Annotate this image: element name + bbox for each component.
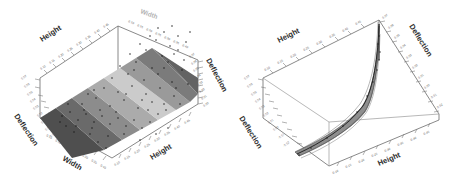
svg-text:0.40: 0.40 bbox=[173, 124, 180, 131]
svg-text:0.04: 0.04 bbox=[254, 97, 261, 104]
svg-text:0.04: 0.04 bbox=[399, 43, 406, 50]
svg-text:0.45: 0.45 bbox=[183, 118, 190, 125]
svg-text:0.20: 0.20 bbox=[290, 52, 297, 58]
svg-text:0.40: 0.40 bbox=[342, 26, 349, 32]
svg-text:0.02: 0.02 bbox=[411, 63, 418, 70]
svg-text:0.06: 0.06 bbox=[23, 82, 30, 89]
svg-text:0.15: 0.15 bbox=[123, 154, 130, 161]
svg-text:0.35: 0.35 bbox=[173, 39, 180, 45]
svg-text:0.07: 0.07 bbox=[188, 52, 195, 59]
left-axis-title-height-bottom: Height bbox=[148, 142, 173, 162]
svg-text:0.30: 0.30 bbox=[75, 40, 82, 47]
svg-text:0.20: 0.20 bbox=[146, 27, 153, 33]
svg-text:0.02: 0.02 bbox=[198, 87, 205, 94]
svg-text:0.25: 0.25 bbox=[155, 31, 162, 37]
svg-text:0.35: 0.35 bbox=[84, 34, 91, 41]
svg-text:0.30: 0.30 bbox=[384, 147, 391, 153]
svg-text:0.30: 0.30 bbox=[164, 35, 171, 41]
right-surface-ribbon bbox=[295, 22, 381, 158]
svg-text:0.10: 0.10 bbox=[264, 65, 271, 71]
right-axis-title-height-bottom: Height bbox=[376, 150, 402, 168]
right-axis-deflection-left-ticks: 0.07 0.06 0.05 0.04 0.03 0.02 0.01 0.00 … bbox=[237, 74, 307, 151]
svg-text:0.07: 0.07 bbox=[381, 13, 388, 20]
svg-text:0.30: 0.30 bbox=[153, 136, 160, 143]
svg-text:0.20: 0.20 bbox=[358, 158, 365, 164]
svg-text:0.07: 0.07 bbox=[20, 74, 27, 81]
svg-text:0.15: 0.15 bbox=[48, 58, 55, 65]
svg-text:0.03: 0.03 bbox=[32, 104, 39, 111]
svg-text:0.10: 0.10 bbox=[113, 160, 120, 167]
svg-text:0.40: 0.40 bbox=[100, 163, 107, 170]
svg-text:0.30: 0.30 bbox=[316, 39, 323, 45]
surface-plot-edge-on: 0.10 0.15 0.20 0.25 0.30 0.35 0.40 0.45 … bbox=[233, 0, 465, 188]
svg-text:0.06: 0.06 bbox=[387, 23, 394, 30]
svg-text:0.15: 0.15 bbox=[277, 58, 284, 64]
svg-text:0.06: 0.06 bbox=[246, 82, 253, 89]
svg-text:0.25: 0.25 bbox=[66, 46, 73, 53]
figure-container: 0.10 0.15 0.20 0.25 0.30 0.35 0.40 0.45 … bbox=[0, 0, 465, 188]
svg-text:0.05: 0.05 bbox=[26, 90, 33, 97]
svg-text:0.40: 0.40 bbox=[182, 43, 189, 49]
svg-text:0.20: 0.20 bbox=[133, 148, 140, 155]
svg-text:0.03: 0.03 bbox=[405, 53, 412, 60]
svg-text:0.10: 0.10 bbox=[128, 19, 135, 25]
left-surface-bands bbox=[40, 48, 198, 158]
svg-text:-0.02: -0.02 bbox=[282, 140, 290, 148]
svg-text:0.03: 0.03 bbox=[258, 104, 265, 111]
svg-text:0.40: 0.40 bbox=[410, 136, 417, 142]
svg-text:0.45: 0.45 bbox=[355, 19, 362, 25]
svg-text:0.45: 0.45 bbox=[423, 130, 430, 136]
svg-text:0.35: 0.35 bbox=[329, 32, 336, 38]
svg-text:0.00: 0.00 bbox=[202, 101, 209, 108]
svg-text:0.15: 0.15 bbox=[137, 23, 144, 29]
svg-text:0.04: 0.04 bbox=[29, 97, 36, 104]
right-plot-svg: 0.10 0.15 0.20 0.25 0.30 0.35 0.40 0.45 … bbox=[233, 0, 465, 188]
right-axis-height-bottom-ticks: 0.10 0.15 0.20 0.25 0.30 0.35 0.40 0.45 … bbox=[332, 123, 430, 175]
surface-plot-overhead: 0.10 0.15 0.20 0.25 0.30 0.35 0.40 0.45 … bbox=[0, 0, 232, 188]
svg-text:0.40: 0.40 bbox=[93, 28, 100, 35]
right-axis-deflection-right-ticks: 0.07 0.06 0.05 0.04 0.03 0.02 0.01 0.00 … bbox=[380, 13, 444, 112]
svg-text:0.25: 0.25 bbox=[371, 152, 378, 158]
svg-text:0.25: 0.25 bbox=[143, 142, 150, 149]
svg-text:0.45: 0.45 bbox=[102, 22, 109, 29]
left-axis-title-deflection-right: Deflection bbox=[204, 57, 229, 94]
svg-text:0.05: 0.05 bbox=[250, 90, 257, 97]
svg-text:0.25: 0.25 bbox=[303, 45, 310, 51]
svg-text:0.20: 0.20 bbox=[57, 52, 64, 59]
svg-text:0.01: 0.01 bbox=[267, 118, 274, 125]
left-axis-title-height-top: Height bbox=[38, 23, 63, 44]
svg-text:0.00: 0.00 bbox=[423, 83, 430, 90]
svg-text:0.35: 0.35 bbox=[91, 158, 98, 165]
svg-text:0.35: 0.35 bbox=[163, 130, 170, 137]
svg-text:0.05: 0.05 bbox=[393, 33, 400, 40]
left-axis-title-width-top: Width bbox=[140, 7, 159, 20]
svg-text:0.35: 0.35 bbox=[397, 141, 404, 147]
right-axis-title-height-top: Height bbox=[276, 26, 302, 45]
right-axis-title-deflection-left: Deflection bbox=[237, 114, 264, 150]
svg-text:0.01: 0.01 bbox=[200, 94, 207, 101]
left-axis-height-top-ticks: 0.10 0.15 0.20 0.25 0.30 0.35 0.40 0.45 … bbox=[38, 22, 110, 73]
left-plot-svg: 0.10 0.15 0.20 0.25 0.30 0.35 0.40 0.45 … bbox=[0, 0, 232, 188]
svg-text:-0.01: -0.01 bbox=[429, 92, 437, 99]
svg-text:0.15: 0.15 bbox=[345, 163, 352, 169]
svg-text:0.05: 0.05 bbox=[192, 66, 199, 73]
right-axis-title-deflection-right: Deflection bbox=[407, 22, 434, 58]
right-axis-height-top-ticks: 0.10 0.15 0.20 0.25 0.30 0.35 0.40 0.45 … bbox=[264, 19, 364, 73]
svg-text:0.07: 0.07 bbox=[243, 74, 250, 81]
svg-text:0.10: 0.10 bbox=[332, 169, 339, 175]
svg-text:0.10: 0.10 bbox=[39, 64, 46, 71]
left-axis-title-deflection-left: Deflection bbox=[12, 112, 40, 148]
svg-text:0.06: 0.06 bbox=[190, 59, 197, 66]
svg-text:0.01: 0.01 bbox=[417, 73, 424, 80]
svg-text:-0.02: -0.02 bbox=[435, 102, 443, 109]
